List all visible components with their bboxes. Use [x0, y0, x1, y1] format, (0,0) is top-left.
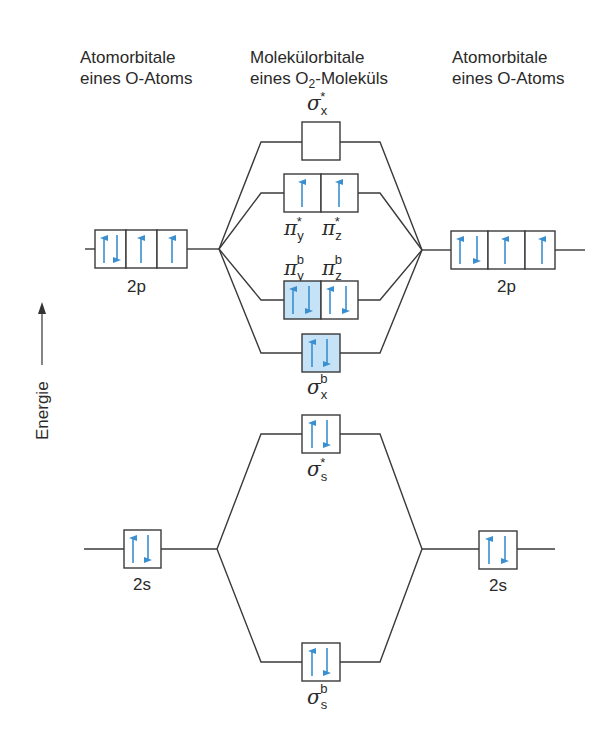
svg-text:σs*: σs* [307, 455, 328, 484]
right-2p-label: 2p [497, 277, 516, 296]
svg-text:πy*: πy* [283, 214, 304, 243]
pi-bonding: πyb πzb [283, 252, 358, 319]
left-2s-label: 2s [133, 575, 151, 594]
right-2p-orbital: 2p [451, 231, 555, 296]
svg-text:πzb: πzb [321, 252, 342, 283]
svg-text:σsb: σsb [307, 681, 328, 712]
svg-text:σxb: σxb [307, 371, 328, 402]
pi-antibonding: πy* πz* [283, 174, 358, 243]
right-2s-label: 2s [489, 576, 507, 595]
sigma-x-bonding: σxb [302, 334, 340, 402]
left-2p-label: 2p [127, 277, 146, 296]
energy-arrow-icon [38, 302, 46, 314]
right-2s-orbital: 2s [479, 531, 517, 595]
svg-text:πyb: πyb [283, 252, 304, 283]
energy-label: Energie [33, 381, 52, 440]
mo-diagram: Energie 2p [0, 0, 611, 741]
svg-text:πz*: πz* [321, 214, 342, 243]
left-2p-orbital: 2p [95, 230, 187, 296]
sigma-s-antibonding: σs* [302, 415, 340, 484]
sigma-s-bonding: σsb [302, 643, 340, 712]
sigma-x-antibonding: σx* [302, 89, 340, 160]
left-2s-orbital: 2s [124, 530, 161, 594]
energy-axis: Energie [33, 302, 52, 440]
svg-text:σx*: σx* [307, 89, 328, 118]
